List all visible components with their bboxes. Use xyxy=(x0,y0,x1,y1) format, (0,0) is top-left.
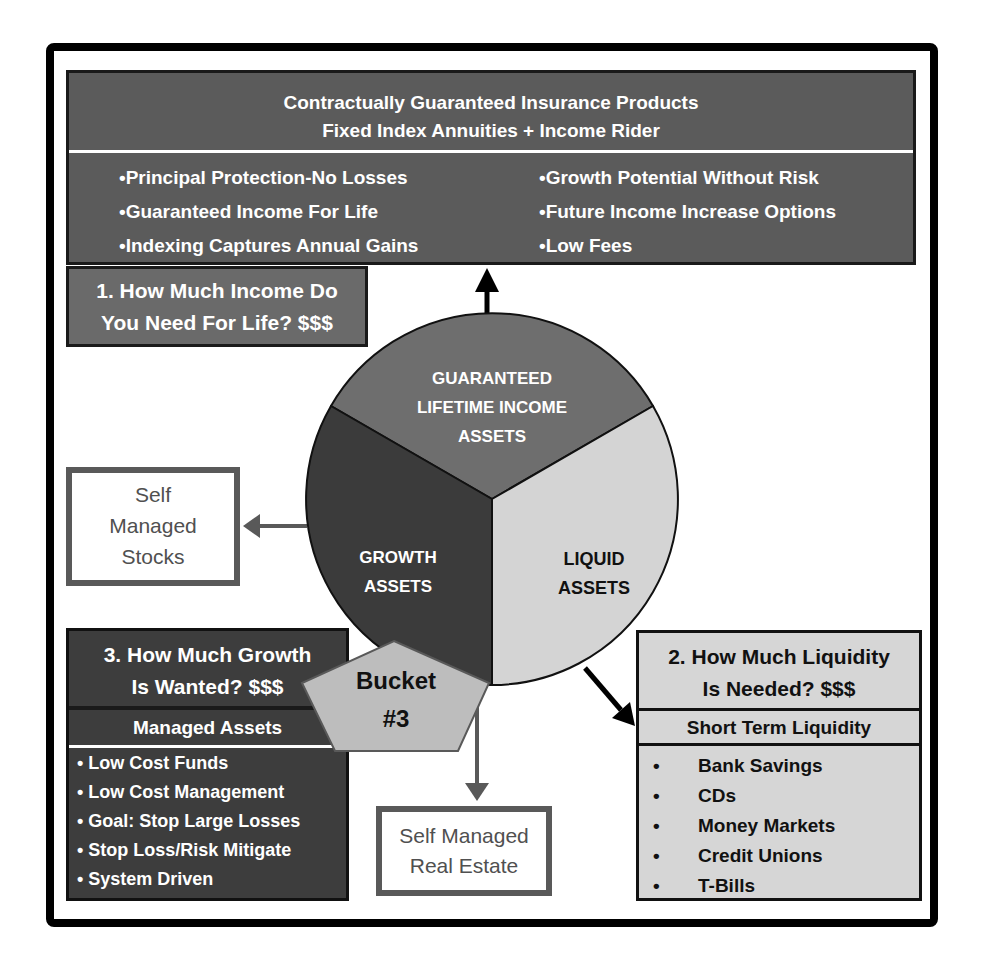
bullet-icon: • xyxy=(653,751,698,781)
bullet-icon: • xyxy=(653,841,698,871)
liquidity-question-box: 2. How Much Liquidity Is Needed? $$$ Sho… xyxy=(636,630,922,901)
bullet-icon: • xyxy=(653,811,698,841)
self-managed-real-estate-box: Self Managed Real Estate xyxy=(376,806,552,896)
liquidity-question: 2. How Much Liquidity Is Needed? $$$ xyxy=(639,641,919,705)
liquidity-question-line2: Is Needed? $$$ xyxy=(639,673,919,705)
bucket-number: #3 xyxy=(383,705,410,732)
liquidity-divider xyxy=(639,708,919,711)
bullet-icon: • xyxy=(653,781,698,811)
realestate-line2: Real Estate xyxy=(382,851,546,881)
list-item: •Money Markets xyxy=(653,811,835,841)
realestate-line1: Self Managed xyxy=(382,821,546,851)
liquidity-divider xyxy=(639,743,919,746)
list-item: •Credit Unions xyxy=(653,841,835,871)
list-item-label: Credit Unions xyxy=(698,841,823,871)
list-item: •T-Bills xyxy=(653,871,835,901)
list-item-label: Bank Savings xyxy=(698,751,823,781)
bucket-label: Bucket xyxy=(356,667,436,694)
list-item-label: Money Markets xyxy=(698,811,835,841)
liquidity-question-line1: 2. How Much Liquidity xyxy=(639,641,919,673)
list-item: •Bank Savings xyxy=(653,751,835,781)
short-term-liquidity-title: Short Term Liquidity xyxy=(639,713,919,743)
liquidity-list: •Bank Savings •CDs •Money Markets •Credi… xyxy=(653,751,835,901)
list-item: •CDs xyxy=(653,781,835,811)
list-item-label: CDs xyxy=(698,781,736,811)
bullet-icon: • xyxy=(653,871,698,901)
list-item-label: T-Bills xyxy=(698,871,755,901)
